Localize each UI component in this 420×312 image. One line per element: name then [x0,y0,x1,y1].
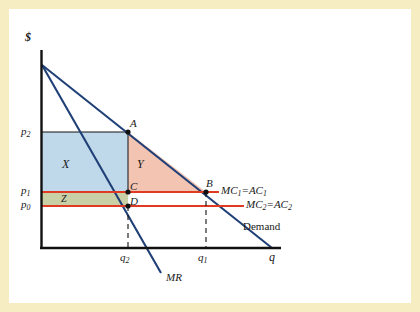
quantity-tick-q1-subscript: 1 [204,256,208,265]
price-tick-p2-subscript: 2 [27,130,31,139]
point-B-marker [203,189,208,194]
region-label-X: X [62,158,69,170]
price-tick-p1-subscript: 1 [27,189,31,198]
ac2-subscript: 2 [288,203,292,212]
quantity-tick-q1: q1 [198,252,207,265]
mc1-equals: = [241,184,248,196]
curve-label-demand: Demand [243,221,280,232]
point-A-marker [125,129,130,134]
price-tick-p0-subscript: 0 [27,203,31,212]
point-label-C: C [130,181,137,192]
y-axis-label: $ [25,31,31,43]
region-label-Y: Y [137,158,144,170]
price-tick-p1: p1 [21,185,30,198]
ac1-base: AC [249,184,263,196]
price-tick-p2: p2 [21,126,30,139]
curve-label-marginal-revenue: MR [166,272,182,283]
curve-label-mc1-ac1: MC1=AC1 [221,185,267,198]
figure-frame: $ q p2 p1 p0 q2 q1 A B C D X Y Z MC1=AC1 [0,0,420,312]
x-axis-label: q [269,251,275,263]
mc2-equals: = [266,198,273,210]
region-label-Z: Z [61,194,67,204]
point-label-B: B [206,178,213,189]
curve-label-mc2-ac2: MC2=AC2 [246,199,292,212]
point-label-D: D [130,196,138,207]
point-label-A: A [130,118,137,129]
quantity-tick-q2: q2 [120,252,129,265]
ac2-base: AC [274,198,288,210]
price-tick-p0: p0 [21,199,30,212]
ac1-subscript: 1 [263,189,267,198]
mc2-base: MC [246,198,263,210]
quantity-tick-q2-subscript: 2 [126,256,130,265]
mc1-base: MC [221,184,238,196]
plot-area: $ q p2 p1 p0 q2 q1 A B C D X Y Z MC1=AC1 [0,0,420,312]
economics-diagram-svg [0,0,420,312]
